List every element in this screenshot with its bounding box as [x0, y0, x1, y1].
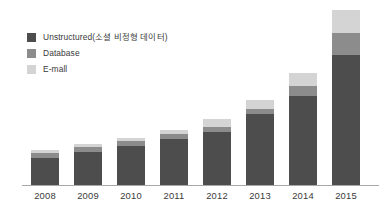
bar-segment-database	[289, 86, 317, 96]
legend-item-database: Database	[27, 47, 168, 60]
x-tick-label: 2013	[246, 189, 274, 203]
x-tick-label: 2015	[332, 189, 360, 203]
bar-segment-unstructured	[117, 146, 145, 185]
chart-legend: Unstructured(소셜 비정형 데이터) Database E-mall	[27, 31, 168, 76]
bar-segment-unstructured	[332, 55, 360, 185]
bar-segment-unstructured	[74, 152, 102, 185]
plot-area	[0, 0, 392, 186]
legend-swatch-icon	[27, 33, 36, 42]
bar-segment-e-mall	[289, 73, 317, 86]
bar-segment-unstructured	[31, 158, 59, 185]
bar-segment-e-mall	[332, 10, 360, 32]
x-axis-tick-labels: 2008 2009 2010 2011 2012 2013 2014 2015	[0, 189, 392, 209]
bar-segment-unstructured	[160, 139, 188, 185]
legend-item-label: Database	[43, 49, 80, 57]
x-tick-label: 2014	[289, 189, 317, 203]
bar-group	[74, 144, 102, 185]
legend-item-label: Unstructured(소셜 비정형 데이터)	[43, 33, 168, 41]
bar-group	[332, 10, 360, 185]
legend-swatch-icon	[27, 49, 36, 58]
bar-group	[117, 138, 145, 185]
bar-segment-unstructured	[246, 114, 274, 185]
legend-item-e-mall: E-mall	[27, 63, 168, 76]
bar-group	[246, 100, 274, 185]
stacked-bar-chart: 2008 2009 2010 2011 2012 2013 2014 2015 …	[0, 0, 392, 216]
x-tick-label: 2009	[74, 189, 102, 203]
x-axis-line	[22, 185, 379, 186]
bar-group	[31, 150, 59, 185]
bar-segment-unstructured	[289, 96, 317, 185]
legend-item-label: E-mall	[43, 65, 67, 73]
x-tick-label: 2010	[117, 189, 145, 203]
bar-group	[160, 130, 188, 185]
bar-group	[203, 119, 231, 185]
bar-group	[289, 73, 317, 185]
bar-segment-database	[332, 33, 360, 55]
x-tick-label: 2012	[203, 189, 231, 203]
legend-swatch-icon	[27, 65, 36, 74]
bar-segment-e-mall	[246, 100, 274, 109]
bar-segment-e-mall	[203, 119, 231, 127]
bar-segment-unstructured	[203, 132, 231, 185]
legend-item-unstructured: Unstructured(소셜 비정형 데이터)	[27, 31, 168, 44]
x-tick-label: 2008	[31, 189, 59, 203]
x-tick-label: 2011	[160, 189, 188, 203]
